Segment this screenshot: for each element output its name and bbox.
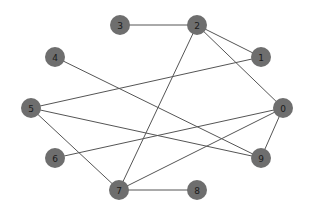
node-5: 5 bbox=[21, 98, 41, 118]
node-0: 0 bbox=[273, 98, 293, 118]
node-label: 9 bbox=[258, 154, 264, 164]
edge-2-1 bbox=[197, 25, 261, 57]
node-label: 1 bbox=[258, 53, 264, 63]
edge-layer bbox=[31, 25, 283, 190]
node-7: 7 bbox=[109, 180, 129, 200]
node-2: 2 bbox=[187, 15, 207, 35]
node-label: 6 bbox=[52, 154, 58, 164]
node-8: 8 bbox=[187, 180, 207, 200]
node-1: 1 bbox=[251, 47, 271, 67]
edge-2-0 bbox=[197, 25, 283, 108]
node-label: 3 bbox=[117, 21, 123, 31]
node-label: 0 bbox=[280, 104, 286, 114]
edge-5-1 bbox=[31, 57, 261, 108]
node-9: 9 bbox=[251, 148, 271, 168]
edge-4-9 bbox=[55, 57, 261, 158]
edge-5-9 bbox=[31, 108, 261, 158]
edge-5-7 bbox=[31, 108, 119, 190]
node-6: 6 bbox=[45, 148, 65, 168]
node-3: 3 bbox=[110, 15, 130, 35]
node-label: 8 bbox=[194, 186, 200, 196]
network-graph: 0123456789 bbox=[0, 0, 315, 216]
node-label: 7 bbox=[116, 186, 122, 196]
node-4: 4 bbox=[45, 47, 65, 67]
node-label: 5 bbox=[28, 104, 34, 114]
node-label: 2 bbox=[194, 21, 200, 31]
edge-6-0 bbox=[55, 108, 283, 158]
node-label: 4 bbox=[52, 53, 58, 63]
